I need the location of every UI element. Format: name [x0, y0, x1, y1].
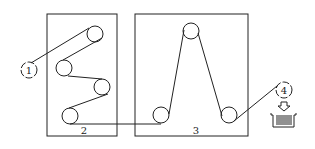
web-path: [63, 38, 102, 60]
roller-2d: [62, 108, 78, 124]
web-path: [234, 86, 277, 121]
web-path: [198, 33, 222, 116]
web-path: [69, 94, 108, 108]
roller-2a: [87, 26, 103, 42]
roller-3b: [183, 23, 199, 39]
label-unit-1: 1: [26, 65, 32, 76]
down-arrow-icon: [278, 102, 290, 111]
process-diagram: 1 2 3 4: [0, 0, 315, 149]
label-unit-3: 3: [193, 125, 199, 136]
label-unit-2: 2: [81, 125, 87, 136]
web-path: [68, 76, 102, 79]
label-unit-4: 4: [281, 85, 287, 96]
web-path: [31, 28, 89, 63]
roller-3a: [153, 107, 169, 123]
web-path: [169, 30, 184, 114]
roller-2c: [94, 79, 110, 95]
box-unit-3: [135, 14, 248, 136]
